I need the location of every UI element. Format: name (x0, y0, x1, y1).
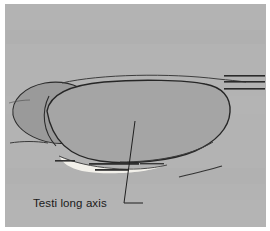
ultrasound-scan-graphic: Testi long axis (0, 0, 270, 231)
testi-long-axis-label: Testi long axis (33, 197, 107, 209)
depth-marker-line-2 (224, 81, 266, 83)
caliper-tick-center-upper (89, 163, 139, 165)
depth-marker-line-3 (224, 88, 266, 90)
ultrasound-figure-panel: Testi long axis (0, 0, 270, 231)
caliper-tick-right (140, 163, 164, 164)
caliper-tick-left (55, 160, 75, 162)
depth-marker-line-1 (224, 75, 266, 77)
caliper-tick-center-lower (95, 169, 129, 171)
